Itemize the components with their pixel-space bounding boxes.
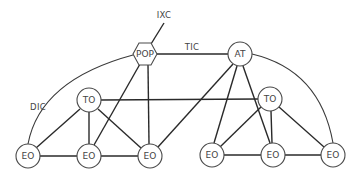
node-eo-4: EO [200,143,224,167]
edge-to-left-to-right [101,99,258,100]
edge-to-left-eo1 [36,109,80,148]
to-left-label: TO [82,95,96,105]
pop-label: POP [136,49,155,59]
edge-to-left-eo3 [98,109,141,148]
edge-pop-eo2 [94,64,140,145]
to-right-label: TO [263,94,277,104]
edge-to-right-eo4 [220,107,261,147]
edge-pop-eo3 [148,65,149,144]
edge-at-eo3 [158,64,233,147]
node-eo-2: EO [77,144,101,168]
edge-to-right-eo5 [271,111,272,143]
node-to-left: TO [77,88,101,112]
network-hierarchy-diagram: IXC TIC DIC POP AT TO TO EO EO EO EO EO [0,0,358,177]
edge-at-eo4 [214,66,237,143]
node-pop: POP [133,43,157,65]
eo-4-label: EO [206,150,219,160]
eo-3-label: EO [144,151,157,161]
eo-1-label: EO [22,151,35,161]
ixc-label: IXC [157,10,172,20]
node-eo-1: EO [16,144,40,168]
eo-2-label: EO [83,151,96,161]
at-label: AT [235,49,246,59]
edge-ixc-pop [151,23,164,44]
node-at: AT [228,42,252,66]
dic-label: DIC [30,102,46,112]
eo-5-label: EO [267,150,280,160]
edge-to-right-eo6 [279,107,324,147]
eo-6-label: EO [327,150,340,160]
node-eo-6: EO [321,143,345,167]
node-eo-5: EO [261,143,285,167]
node-eo-3: EO [138,144,162,168]
node-to-right: TO [258,87,282,111]
tic-label: TIC [184,42,200,52]
